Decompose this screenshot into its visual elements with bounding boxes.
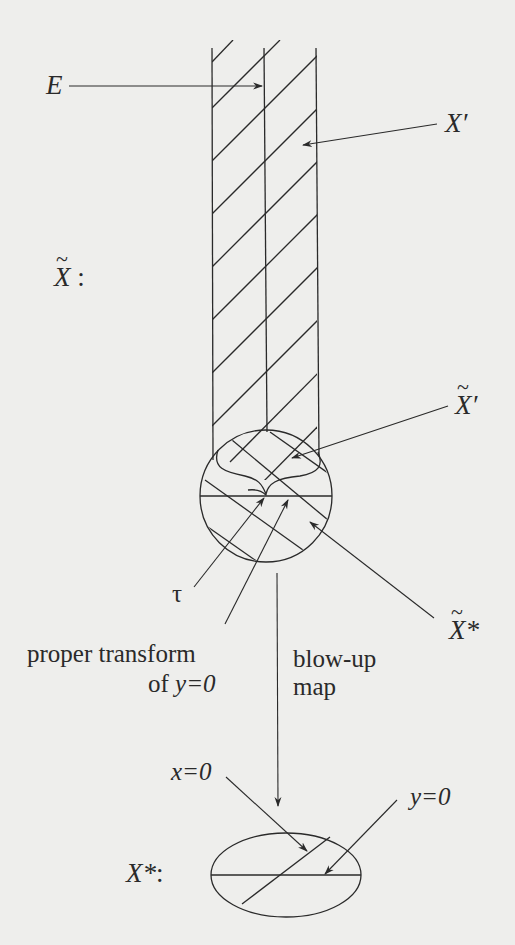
arrow-x-eq-0 xyxy=(226,777,307,851)
ellipse-diagonal-line xyxy=(242,837,330,904)
tau-curve xyxy=(248,490,266,495)
label-E: E xyxy=(46,70,63,101)
tilde-glyph: ~ xyxy=(56,246,68,272)
arrow-proper-transform xyxy=(225,500,288,624)
arrow-blowup-map xyxy=(277,573,278,806)
label-proper-transform: proper transform xyxy=(27,640,196,668)
label-map: map xyxy=(293,673,336,701)
label-X-prime: X′ xyxy=(445,108,467,139)
label-y-eq-0: y=0 xyxy=(410,783,450,811)
label-x-eq-0: x=0 xyxy=(171,758,211,786)
label-X-star: X*: xyxy=(126,858,164,889)
diagram-stage: E X′ ~X : ~X′ τ ~X* proper transform of … xyxy=(0,0,515,945)
arrow-X-tilde-star xyxy=(310,522,434,618)
label-X-tilde-prime: ~X′ xyxy=(455,390,477,421)
label-of-y-eq-0: of y=0 xyxy=(148,670,216,698)
arrow-y-eq-0 xyxy=(325,800,397,874)
arrow-tau xyxy=(194,498,264,587)
strip-hatching xyxy=(212,40,333,485)
strip-boundaries xyxy=(212,48,319,460)
label-blowup: blow-up xyxy=(293,645,376,673)
label-X-tilde-star: ~X* xyxy=(449,615,479,646)
label-X-tilde: ~X : xyxy=(54,262,85,293)
arrow-X-tilde-prime xyxy=(292,406,448,458)
arrow-X-prime xyxy=(303,124,437,145)
label-tau: τ xyxy=(172,580,182,608)
